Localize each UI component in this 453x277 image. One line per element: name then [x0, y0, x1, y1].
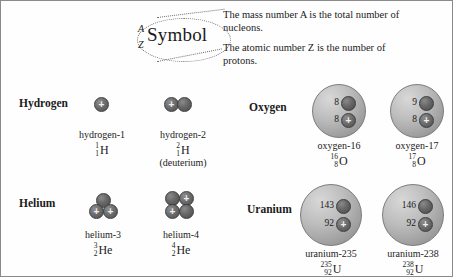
notation-symbol: U: [333, 262, 342, 276]
proton-plus-glyph: +: [166, 205, 179, 218]
neutron-disc: [418, 199, 433, 214]
caption-oxygen-17: oxygen-17 17 8 O: [379, 140, 453, 168]
neutron-count-uranium-238: 146: [386, 200, 416, 210]
nucleus-helium-3: + +: [88, 193, 122, 223]
neutron-disc: [341, 96, 356, 111]
isotope-notation: 17 8 O: [408, 153, 425, 168]
proton-count-uranium-238: 92: [386, 218, 416, 228]
isotope-notation: 235 92 U: [321, 261, 342, 276]
caption-uranium-235: uranium-235 235 92 U: [290, 248, 372, 276]
caption-oxygen-16: oxygen-16 16 8 O: [301, 140, 377, 168]
isotope-name: oxygen-17: [379, 140, 453, 152]
isotope-notation: 3 2 He: [94, 242, 113, 257]
proton-disc: +: [94, 97, 109, 112]
proton-plus-glyph: +: [104, 205, 117, 218]
nucleus-oxygen-17: 9 8 +: [390, 84, 444, 138]
caption-helium-3: helium-3 3 2 He: [67, 229, 139, 257]
caption-uranium-238: uranium-238 238 92 U: [372, 248, 453, 276]
notation-atomic-number: 92: [321, 269, 332, 277]
element-label-oxygen: Oxygen: [249, 101, 287, 113]
nucleus-hydrogen-1: +: [89, 94, 115, 116]
nucleus-helium-4: + +: [164, 191, 198, 223]
notation-symbol: O: [339, 154, 348, 168]
notation-atomic-number: 92: [403, 269, 414, 277]
element-label-helium: Helium: [19, 197, 55, 209]
proton-count-uranium-235: 92: [304, 218, 334, 228]
diagram-canvas: A Z Symbol The mass number A is the tota…: [0, 0, 453, 277]
proton-count-oxygen-16: 8: [317, 114, 339, 124]
element-label-hydrogen: Hydrogen: [19, 97, 68, 109]
atomic-number-letter: Z: [138, 39, 144, 50]
nucleus-oxygen-16: 8 8 +: [312, 84, 366, 138]
mass-number-letter: A: [138, 23, 144, 34]
neutron-count-oxygen-17: 9: [395, 97, 417, 107]
isotope-name: helium-4: [145, 229, 217, 241]
nucleus-hydrogen-2: +: [164, 94, 200, 116]
isotope-name: hydrogen-2: [141, 129, 225, 141]
isotope-name: uranium-235: [290, 248, 372, 260]
isotope-name: helium-3: [67, 229, 139, 241]
isotope-name: uranium-238: [372, 248, 453, 260]
proton-disc: +: [419, 113, 434, 128]
callout-atomic-number: The atomic number Z is the number of pro…: [223, 42, 413, 67]
notation-symbol: H: [181, 143, 190, 157]
isotope-notation: 4 2 He: [172, 242, 191, 257]
proton-count-oxygen-17: 8: [395, 114, 417, 124]
neutron-disc: [419, 96, 434, 111]
callout-mass-number: The mass number A is the total number of…: [223, 9, 413, 34]
proton-disc: +: [336, 217, 351, 232]
notation-symbol: U: [415, 262, 424, 276]
isotope-name: hydrogen-1: [63, 129, 141, 141]
nucleus-uranium-238: 146 92 +: [382, 184, 444, 246]
proton-disc: +: [165, 204, 180, 219]
neutron-disc: [336, 199, 351, 214]
isotope-notation: 238 92 U: [403, 261, 424, 276]
neutron-disc: [177, 97, 192, 112]
isotope-alias: (deuterium): [141, 157, 225, 169]
proton-disc: +: [418, 217, 433, 232]
notation-atomic-number: 1: [95, 150, 99, 158]
notation-atomic-number: 8: [330, 161, 338, 169]
element-label-uranium: Uranium: [247, 203, 292, 215]
proton-plus-glyph: +: [337, 218, 350, 231]
proton-plus-glyph: +: [342, 114, 355, 127]
isotope-notation: 1 1 H: [95, 142, 108, 157]
notation-symbol: H: [100, 143, 109, 157]
proton-disc: +: [103, 204, 118, 219]
notation-symbol: O: [417, 154, 426, 168]
notation-symbol: He: [98, 243, 112, 257]
proton-plus-glyph: +: [95, 98, 108, 111]
neutron-disc: [179, 204, 194, 219]
caption-hydrogen-2: hydrogen-2 2 1 H (deuterium): [141, 129, 225, 169]
caption-hydrogen-1: hydrogen-1 1 1 H: [63, 129, 141, 157]
proton-disc: +: [89, 204, 104, 219]
notation-atomic-number: 2: [94, 250, 98, 258]
isotope-name: oxygen-16: [301, 140, 377, 152]
proton-disc: +: [341, 113, 356, 128]
caption-helium-4: helium-4 4 2 He: [145, 229, 217, 257]
symbol-word: Symbol: [147, 24, 207, 46]
isotope-notation: 2 1 H: [176, 142, 189, 157]
proton-plus-glyph: +: [90, 205, 103, 218]
notation-atomic-number: 8: [408, 161, 416, 169]
neutron-count-uranium-235: 143: [304, 200, 334, 210]
neutron-count-oxygen-16: 8: [317, 97, 339, 107]
notation-atomic-number: 1: [176, 150, 180, 158]
isotope-notation: 16 8 O: [330, 153, 347, 168]
proton-plus-glyph: +: [419, 218, 432, 231]
notation-symbol: He: [176, 243, 190, 257]
notation-atomic-number: 2: [172, 250, 176, 258]
nucleus-uranium-235: 143 92 +: [300, 184, 362, 246]
proton-plus-glyph: +: [420, 114, 433, 127]
